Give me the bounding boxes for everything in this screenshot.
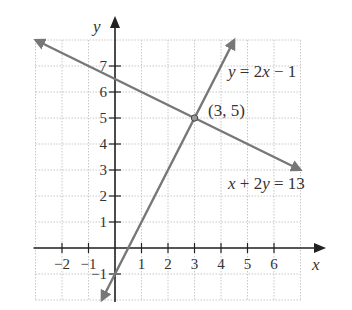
- coordinate-plane: −2−1123456−11234567 y x y = 2x − 1 x + 2…: [0, 0, 352, 310]
- x-tick-label: 6: [270, 256, 278, 272]
- x-axis-arrow-icon: [314, 243, 326, 253]
- y-tick-label: −1: [91, 266, 107, 282]
- y-axis-arrow-icon: [110, 16, 120, 28]
- x-tick-label: 3: [191, 256, 199, 272]
- y-tick-label: 5: [100, 110, 108, 126]
- line1-equation-label: y = 2x − 1: [226, 62, 296, 81]
- y-axis-label: y: [91, 17, 101, 36]
- intersection-label: (3, 5): [208, 101, 245, 120]
- axes: [34, 16, 327, 302]
- x-tick-label: 5: [244, 256, 252, 272]
- y-tick-label: 3: [100, 162, 108, 178]
- x-tick-label: 4: [217, 256, 225, 272]
- x-tick-label: 2: [164, 256, 172, 272]
- y-tick-label: 4: [100, 136, 108, 152]
- x-tick-label: −2: [54, 256, 70, 272]
- x-tick-label: 1: [138, 256, 146, 272]
- y-tick-label: 2: [100, 188, 108, 204]
- labels: y x y = 2x − 1 x + 2y = 13 (3, 5): [91, 17, 320, 274]
- y-tick-label: 1: [100, 214, 108, 230]
- line2-equation-label: x + 2y = 13: [227, 174, 305, 193]
- x-axis-label: x: [311, 255, 320, 274]
- intersection-point: [191, 115, 197, 121]
- y-tick-label: 6: [100, 84, 108, 100]
